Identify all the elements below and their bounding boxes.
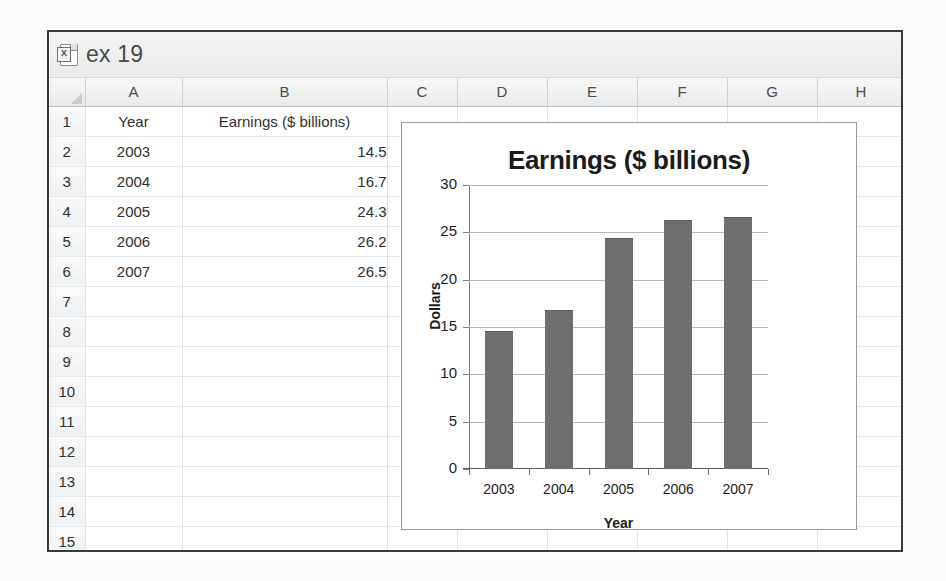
cell-A3[interactable]: 2004: [85, 166, 182, 196]
x-tick-label-2004: 2004: [529, 481, 589, 497]
column-header-row: A B C D E F G H: [49, 78, 903, 106]
y-tick-label-10: 10: [417, 364, 457, 381]
bar-2005[interactable]: [605, 238, 633, 469]
cell-B7[interactable]: [182, 286, 387, 316]
embedded-bar-chart[interactable]: Earnings ($ billions) 051015202530200320…: [401, 122, 857, 530]
y-tick-label-0: 0: [417, 459, 457, 476]
excel-icon-badge: X: [57, 47, 71, 62]
y-tick-30: [463, 185, 469, 186]
cell-A10[interactable]: [85, 376, 182, 406]
column-header-c[interactable]: C: [387, 78, 457, 106]
cell-B10[interactable]: [182, 376, 387, 406]
window-title: ex 19: [86, 41, 143, 68]
row-header-1[interactable]: 1: [49, 106, 85, 136]
y-tick-20: [463, 280, 469, 281]
y-tick-25: [463, 232, 469, 233]
x-tick-end: [768, 469, 769, 475]
row-header-6[interactable]: 6: [49, 256, 85, 286]
column-header-b[interactable]: B: [182, 78, 387, 106]
cell-B3[interactable]: 16.7: [182, 166, 387, 196]
cell-B14[interactable]: [182, 496, 387, 526]
column-header-h[interactable]: H: [817, 78, 903, 106]
y-axis-title: Dollars: [427, 261, 443, 351]
bar-2003[interactable]: [485, 331, 513, 469]
row-header-9[interactable]: 9: [49, 346, 85, 376]
cell-A12[interactable]: [85, 436, 182, 466]
x-tick-label-2003: 2003: [469, 481, 529, 497]
cell-B11[interactable]: [182, 406, 387, 436]
row-header-7[interactable]: 7: [49, 286, 85, 316]
row-header-4[interactable]: 4: [49, 196, 85, 226]
row-header-14[interactable]: 14: [49, 496, 85, 526]
cell-B12[interactable]: [182, 436, 387, 466]
x-tick-label-2005: 2005: [589, 481, 649, 497]
cell-A4[interactable]: 2005: [85, 196, 182, 226]
x-tick-2005: [589, 469, 590, 475]
cell-A1[interactable]: Year: [85, 106, 182, 136]
cell-A8[interactable]: [85, 316, 182, 346]
cell-B2[interactable]: 14.5: [182, 136, 387, 166]
cell-B4[interactable]: 24.3: [182, 196, 387, 226]
column-header-g[interactable]: G: [727, 78, 817, 106]
x-tick-2003: [469, 469, 470, 475]
y-tick-15: [463, 327, 469, 328]
gridline-30: [469, 185, 768, 186]
row-header-3[interactable]: 3: [49, 166, 85, 196]
y-tick-label-5: 5: [417, 412, 457, 429]
cell-B6[interactable]: 26.5: [182, 256, 387, 286]
cell-A15[interactable]: [85, 526, 182, 552]
cell-A9[interactable]: [85, 346, 182, 376]
cell-A14[interactable]: [85, 496, 182, 526]
row-header-5[interactable]: 5: [49, 226, 85, 256]
bar-2004[interactable]: [545, 310, 573, 469]
window-title-bar: X ex 19: [49, 32, 901, 78]
x-tick-label-2007: 2007: [708, 481, 768, 497]
row-header-12[interactable]: 12: [49, 436, 85, 466]
column-header-a[interactable]: A: [85, 78, 182, 106]
cell-A7[interactable]: [85, 286, 182, 316]
column-header-d[interactable]: D: [457, 78, 547, 106]
row-header-11[interactable]: 11: [49, 406, 85, 436]
y-tick-5: [463, 422, 469, 423]
y-tick-label-25: 25: [417, 222, 457, 239]
cell-A2[interactable]: 2003: [85, 136, 182, 166]
workbook-window: X ex 19 A B C D E F G H: [47, 30, 903, 552]
cell-B15[interactable]: [182, 526, 387, 552]
select-all-corner[interactable]: [49, 78, 85, 106]
cell-B13[interactable]: [182, 466, 387, 496]
chart-plot-area: 05101520253020032004200520062007: [469, 185, 768, 469]
x-tick-2006: [648, 469, 649, 475]
row-header-8[interactable]: 8: [49, 316, 85, 346]
cell-B9[interactable]: [182, 346, 387, 376]
row-header-10[interactable]: 10: [49, 376, 85, 406]
bar-2007[interactable]: [724, 217, 752, 469]
column-header-e[interactable]: E: [547, 78, 637, 106]
row-header-15[interactable]: 15: [49, 526, 85, 552]
excel-document-icon: X: [57, 43, 79, 67]
column-header-f[interactable]: F: [637, 78, 727, 106]
cell-A11[interactable]: [85, 406, 182, 436]
y-tick-label-30: 30: [417, 175, 457, 192]
x-tick-label-2006: 2006: [648, 481, 708, 497]
row-header-13[interactable]: 13: [49, 466, 85, 496]
y-tick-10: [463, 374, 469, 375]
cell-B5[interactable]: 26.2: [182, 226, 387, 256]
x-tick-2004: [529, 469, 530, 475]
row-header-2[interactable]: 2: [49, 136, 85, 166]
cell-B1[interactable]: Earnings ($ billions): [182, 106, 387, 136]
chart-title: Earnings ($ billions): [402, 145, 856, 176]
bar-2006[interactable]: [664, 220, 692, 469]
select-all-triangle-icon: [71, 93, 82, 104]
x-axis-title: Year: [469, 515, 768, 531]
cell-A5[interactable]: 2006: [85, 226, 182, 256]
cell-B8[interactable]: [182, 316, 387, 346]
cell-A13[interactable]: [85, 466, 182, 496]
cell-A6[interactable]: 2007: [85, 256, 182, 286]
x-tick-2007: [708, 469, 709, 475]
